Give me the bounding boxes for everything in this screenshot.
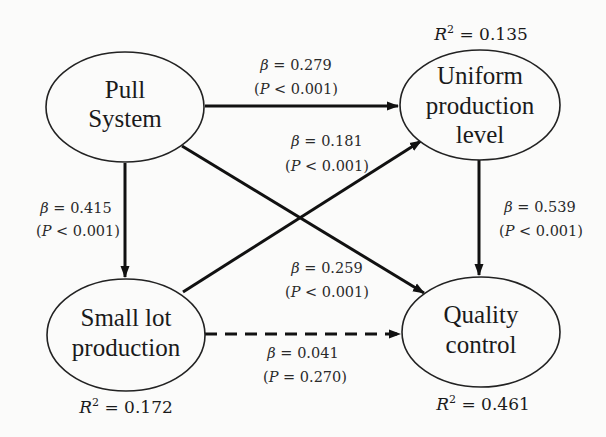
node-pull-system: Pull System <box>46 52 204 162</box>
r2-small-lot: R2 = 0.172 <box>78 396 173 417</box>
p-pull-to-quality: (P < 0.001) <box>285 284 369 300</box>
p-pull-to-uniform: (P < 0.001) <box>254 81 338 97</box>
node-label: System <box>88 105 162 132</box>
beta-pull-to-uniform: β = 0.279 <box>259 57 331 73</box>
p-pull-to-smalllot: (P < 0.001) <box>36 223 120 239</box>
node-small-lot-production: Small lot production <box>47 279 205 391</box>
beta-smalllot-to-quality: β = 0.041 <box>266 345 338 361</box>
node-label: production <box>72 334 181 361</box>
beta-pull-to-quality: β = 0.259 <box>290 260 362 276</box>
beta-pull-to-smalllot: β = 0.415 <box>39 200 111 216</box>
node-uniform-production-level: Uniform production level <box>400 50 560 160</box>
r2-quality: R2 = 0.461 <box>435 393 530 414</box>
node-quality-control: Quality control <box>402 277 560 387</box>
node-label: level <box>456 121 505 148</box>
node-label: Uniform <box>437 62 524 89</box>
beta-uniform-to-quality: β = 0.539 <box>503 199 575 215</box>
beta-smalllot-to-uniform: β = 0.181 <box>290 133 362 149</box>
r2-uniform: R2 = 0.135 <box>433 23 528 44</box>
p-uniform-to-quality: (P < 0.001) <box>499 223 583 239</box>
node-label: Quality <box>444 301 519 328</box>
path-diagram: Pull System Uniform production level Sma… <box>0 0 606 437</box>
p-smalllot-to-quality: (P = 0.270) <box>263 369 347 385</box>
node-label: control <box>446 331 517 358</box>
node-label: production <box>426 92 535 119</box>
node-label: Small lot <box>81 304 172 331</box>
p-smalllot-to-uniform: (P < 0.001) <box>285 158 369 174</box>
node-label: Pull <box>105 76 145 103</box>
